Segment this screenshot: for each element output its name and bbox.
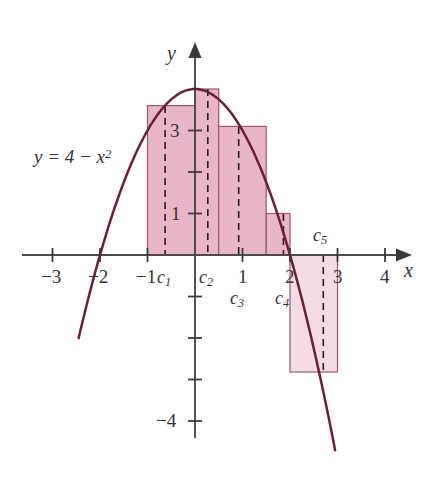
x-tick-label--2: −2 — [88, 266, 108, 288]
c2-subscript: 2 — [207, 275, 213, 289]
x-tick-label-2: 2 — [285, 266, 295, 288]
axis-label-y: y — [167, 42, 176, 65]
c4-base: c — [275, 288, 283, 308]
sample-point-label-c4: c4 — [275, 288, 289, 311]
y-tick-label-1: 1 — [171, 203, 181, 225]
c2-base: c — [199, 267, 207, 287]
c3-subscript: 3 — [238, 296, 244, 310]
axis-label-x: x — [404, 259, 413, 282]
curve-equation-label: y = 4 − x2 — [34, 146, 111, 168]
x-tick-label--3: −3 — [41, 266, 61, 288]
y-tick-label-3: 3 — [170, 120, 180, 142]
figure-canvas: y = 4 − x2 y x −3 −2 −1 1 2 3 4 3 1 −4 c… — [0, 0, 431, 482]
riemann-sum-plot — [0, 0, 431, 482]
sample-point-label-c3: c3 — [230, 288, 244, 311]
x-tick-label-4: 4 — [380, 266, 390, 288]
c1-base: c — [157, 267, 165, 287]
sample-point-label-c1: c1 — [157, 267, 171, 290]
y-tick-label--4: −4 — [156, 410, 176, 432]
equation-text: y = 4 − x — [34, 146, 105, 167]
rectangle-5 — [290, 255, 338, 372]
sample-point-label-c2: c2 — [199, 267, 213, 290]
sample-point-label-c5: c5 — [313, 225, 327, 248]
x-tick-label-3: 3 — [333, 266, 343, 288]
c5-base: c — [313, 225, 321, 245]
y-axis-arrowhead — [189, 42, 202, 58]
equation-exponent: 2 — [105, 146, 111, 161]
c1-subscript: 1 — [165, 275, 171, 289]
c5-subscript: 5 — [321, 233, 327, 247]
x-tick-label-1: 1 — [238, 266, 248, 288]
c3-base: c — [230, 288, 238, 308]
rectangle-4 — [266, 214, 290, 256]
x-tick-label--1: −1 — [136, 266, 156, 288]
c4-subscript: 4 — [283, 296, 289, 310]
